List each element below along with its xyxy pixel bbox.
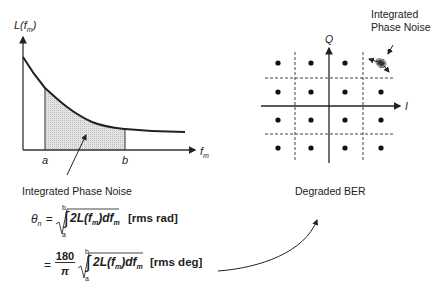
coeff-denominator: π (55, 265, 75, 277)
coeff-numerator: 180 (55, 250, 75, 263)
lower-limit-2: a (85, 275, 89, 282)
decision-boundaries (265, 52, 395, 162)
integral-sign-1: ∫ (64, 208, 69, 229)
lower-limit-1: a (62, 231, 66, 238)
unit-deg: [rms deg] (150, 256, 202, 268)
q-axis-label: Q (325, 33, 333, 45)
integrand-1: 2L(fm)dfm (70, 211, 120, 226)
integrand-2: 2L(fm)dfm (93, 255, 143, 270)
y-axis-label: L(fm) (14, 19, 36, 33)
relation-arrow (218, 220, 317, 271)
marker-b-label: b (122, 154, 128, 166)
ber-caption: Degraded BER (295, 185, 366, 197)
constellation-annotation: Integrated Phase Noise (371, 8, 431, 34)
formula-theta-rad: θn = (31, 212, 53, 227)
i-axis-label: I (405, 100, 408, 112)
marker-a-label: a (42, 154, 48, 166)
integral-sign-2: ∫ (86, 252, 91, 273)
x-axis-label: fm (200, 145, 209, 159)
noisy-point-cluster (369, 56, 389, 72)
equals-2: = (44, 258, 51, 272)
annotation-pointer-arrow (388, 45, 393, 54)
phase-noise-caption: Integrated Phase Noise (22, 185, 132, 197)
unit-rad: [rms rad] (128, 212, 178, 224)
